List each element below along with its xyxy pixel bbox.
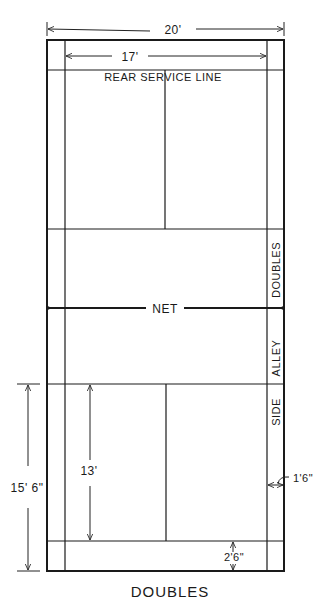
dim-half-court-label: 15' 6" (11, 481, 44, 495)
doubles-alley-label-alley: ALLEY (270, 339, 282, 376)
doubles-alley-label-doubles: DOUBLES (270, 242, 282, 298)
court-diagram: 20' 17' REAR SERVICE LINE NET DOUBLES AL… (0, 0, 328, 607)
rear-service-line-label: REAR SERVICE LINE (104, 71, 222, 83)
dim-service-box-label: 13' (80, 464, 97, 478)
dim-inner-width-label: 17' (121, 50, 138, 64)
net-label: NET (152, 302, 178, 316)
diagram-title: DOUBLES (131, 583, 210, 600)
net-post-left (46, 306, 50, 310)
dim-alley-width-label: 1'6" (293, 472, 313, 484)
dim-outer-width-label: 20' (164, 23, 181, 37)
dim-20-arrow-left (48, 29, 150, 31)
net-post-right (281, 306, 285, 310)
doubles-alley-label-side: SIDE (270, 398, 282, 426)
dim-back-service-label: 2'6" (224, 551, 244, 563)
